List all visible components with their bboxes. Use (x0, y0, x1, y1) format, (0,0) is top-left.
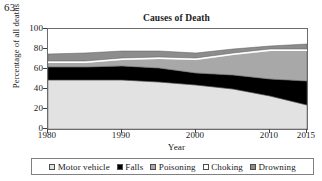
y-tick-mark (43, 48, 47, 49)
legend-label: Falls (125, 162, 143, 172)
legend-item-drowning[interactable]: Drowning (250, 162, 296, 172)
y-tick-label: 80 (21, 44, 43, 53)
legend-item-motor-vehicle[interactable]: Motor vehicle (49, 162, 110, 172)
y-tick-mark (43, 68, 47, 69)
legend-item-poisoning[interactable]: Poisoning (150, 162, 195, 172)
legend-item-falls[interactable]: Falls (117, 162, 144, 172)
x-tick-mark (269, 129, 270, 133)
chart-title: Causes of Death (47, 13, 306, 24)
legend-label: Choking (211, 162, 243, 172)
legend-swatch-icon (150, 164, 156, 170)
legend-swatch-icon (250, 164, 256, 170)
y-tick-label: 60 (21, 64, 43, 73)
x-tick-mark (121, 129, 122, 133)
legend-label: Drowning (258, 162, 295, 172)
x-axis-title: Year (47, 142, 306, 153)
y-axis-tick-labels: 020406080100 (20, 0, 43, 181)
legend-swatch-icon (117, 164, 123, 170)
legend-label: Poisoning (159, 162, 196, 172)
x-tick-label: 2015 (286, 130, 322, 140)
legend-item-choking[interactable]: Choking (203, 162, 243, 172)
y-tick-label: 20 (21, 104, 43, 113)
y-tick-label: 100 (21, 24, 43, 33)
y-tick-mark (43, 88, 47, 89)
y-tick-mark (43, 108, 47, 109)
figure-container: 63. Causes of Death Percentage of all de… (0, 0, 322, 181)
plot-area (47, 28, 308, 130)
stacked-area-plot (48, 29, 307, 129)
y-tick-mark (43, 28, 47, 29)
chart-legend: Motor vehicleFallsPoisoningChokingDrowni… (31, 158, 314, 175)
x-tick-mark (195, 129, 196, 133)
y-tick-label: 40 (21, 84, 43, 93)
legend-label: Motor vehicle (58, 162, 110, 172)
legend-swatch-icon (203, 164, 209, 170)
legend-swatch-icon (49, 164, 55, 170)
x-tick-mark (47, 129, 48, 133)
x-tick-mark (306, 129, 307, 133)
